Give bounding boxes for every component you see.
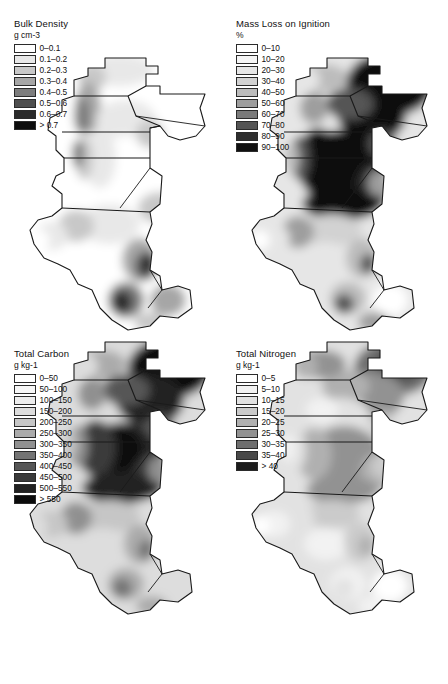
legend-swatch xyxy=(236,110,258,119)
legend-row: 500–550 xyxy=(14,483,72,494)
legend-class-list: 0–10 10–20 20–30 30–40 40–50 50–60 60–70… xyxy=(236,43,330,153)
panel-total-nitrogen: Total Nitrogen g kg-1 0–5 5–10 10–15 15–… xyxy=(222,338,446,670)
legend-label: 60–70 xyxy=(262,110,285,119)
legend-label: 0–0.1 xyxy=(40,44,61,53)
legend-class-list: 0–0.1 0.1–0.2 0.2–0.3 0.3–0.4 0.4–0.5 0.… xyxy=(14,43,68,131)
legend-row: 450–500 xyxy=(14,472,72,483)
legend-swatch xyxy=(14,440,36,449)
legend-swatch xyxy=(236,66,258,75)
panel-bulk-density: Bulk Density g cm-3 0–0.1 0.1–0.2 0.2–0.… xyxy=(0,8,224,340)
legend-row: 90–100 xyxy=(236,142,330,153)
legend-row: > 40 xyxy=(236,461,296,472)
legend-row: 30–35 xyxy=(236,439,296,450)
legend-title: Mass Loss on Ignition xyxy=(236,18,330,29)
legend-units: g kg-1 xyxy=(14,360,72,371)
legend-label: > 0.7 xyxy=(40,121,59,130)
legend-row: 5–10 xyxy=(236,384,296,395)
legend-row: 250–300 xyxy=(14,428,72,439)
legend-swatch xyxy=(14,473,36,482)
legend-label: 40–50 xyxy=(262,88,285,97)
legend-mass-loss: Mass Loss on Ignition % 0–10 10–20 20–30… xyxy=(236,18,330,153)
legend-label: 90–100 xyxy=(262,143,290,152)
legend-label: 35–40 xyxy=(262,451,285,460)
legend-label: 300–350 xyxy=(40,440,72,449)
legend-row: > 0.7 xyxy=(14,120,68,131)
legend-row: 0–50 xyxy=(14,373,72,384)
legend-row: 400–450 xyxy=(14,461,72,472)
soil-property-map-figure: Bulk Density g cm-3 0–0.1 0.1–0.2 0.2–0.… xyxy=(0,0,448,684)
legend-row: 0.4–0.5 xyxy=(14,87,68,98)
legend-title: Total Nitrogen xyxy=(236,348,296,359)
legend-label: 30–35 xyxy=(262,440,285,449)
legend-swatch xyxy=(14,484,36,493)
legend-swatch xyxy=(14,66,36,75)
legend-label: 500–550 xyxy=(40,484,72,493)
legend-label: > 40 xyxy=(262,462,278,471)
legend-row: 0.2–0.3 xyxy=(14,65,68,76)
legend-swatch xyxy=(14,495,36,504)
legend-row: 35–40 xyxy=(236,450,296,461)
legend-label: 250–300 xyxy=(40,429,72,438)
legend-label: 0–5 xyxy=(262,374,276,383)
legend-swatch xyxy=(236,44,258,53)
legend-swatch xyxy=(236,374,258,383)
legend-row: 15–20 xyxy=(236,406,296,417)
legend-swatch xyxy=(14,385,36,394)
legend-swatch xyxy=(14,99,36,108)
legend-row: 200–250 xyxy=(14,417,72,428)
legend-row: 300–350 xyxy=(14,439,72,450)
legend-label: 50–100 xyxy=(40,385,68,394)
legend-units: g kg-1 xyxy=(236,360,296,371)
legend-label: 70–80 xyxy=(262,121,285,130)
legend-label: 25–30 xyxy=(262,429,285,438)
legend-label: 350–400 xyxy=(40,451,72,460)
legend-label: 10–15 xyxy=(262,396,285,405)
legend-units: % xyxy=(236,30,330,41)
legend-row: 30–40 xyxy=(236,76,330,87)
legend-row: 0–5 xyxy=(236,373,296,384)
legend-swatch xyxy=(14,121,36,130)
legend-label: 0.2–0.3 xyxy=(40,66,68,75)
legend-row: 20–25 xyxy=(236,417,296,428)
legend-bulk-density: Bulk Density g cm-3 0–0.1 0.1–0.2 0.2–0.… xyxy=(14,18,68,131)
legend-title: Bulk Density xyxy=(14,18,68,29)
legend-swatch xyxy=(14,77,36,86)
legend-label: > 550 xyxy=(40,495,61,504)
legend-row: 150–200 xyxy=(14,406,72,417)
panel-total-carbon: Total Carbon g kg-1 0–50 50–100 100–150 … xyxy=(0,338,224,670)
legend-swatch xyxy=(236,429,258,438)
legend-row: 0.6–0.7 xyxy=(14,109,68,120)
legend-row: 50–60 xyxy=(236,98,330,109)
legend-row: 50–100 xyxy=(14,384,72,395)
legend-swatch xyxy=(14,451,36,460)
legend-swatch xyxy=(236,121,258,130)
legend-label: 0–10 xyxy=(262,44,280,53)
panel-mass-loss: Mass Loss on Ignition % 0–10 10–20 20–30… xyxy=(222,8,446,340)
legend-row: > 550 xyxy=(14,494,72,505)
legend-label: 20–30 xyxy=(262,66,285,75)
legend-swatch xyxy=(14,429,36,438)
legend-swatch xyxy=(236,440,258,449)
legend-total-carbon: Total Carbon g kg-1 0–50 50–100 100–150 … xyxy=(14,348,72,505)
legend-swatch xyxy=(236,132,258,141)
legend-row: 0–0.1 xyxy=(14,43,68,54)
legend-swatch xyxy=(236,418,258,427)
legend-label: 20–25 xyxy=(262,418,285,427)
legend-swatch xyxy=(236,55,258,64)
legend-row: 0.1–0.2 xyxy=(14,54,68,65)
legend-row: 0–10 xyxy=(236,43,330,54)
legend-swatch xyxy=(236,99,258,108)
legend-label: 0.6–0.7 xyxy=(40,110,68,119)
legend-label: 0.5–0.6 xyxy=(40,99,68,108)
legend-swatch xyxy=(236,396,258,405)
legend-swatch xyxy=(14,418,36,427)
legend-label: 0.1–0.2 xyxy=(40,55,68,64)
legend-row: 10–20 xyxy=(236,54,330,65)
legend-label: 0.3–0.4 xyxy=(40,77,68,86)
legend-row: 25–30 xyxy=(236,428,296,439)
legend-swatch xyxy=(14,374,36,383)
legend-row: 100–150 xyxy=(14,395,72,406)
legend-class-list: 0–5 5–10 10–15 15–20 20–25 25–30 30–35 3… xyxy=(236,373,296,472)
legend-swatch xyxy=(236,462,258,471)
legend-swatch xyxy=(14,44,36,53)
